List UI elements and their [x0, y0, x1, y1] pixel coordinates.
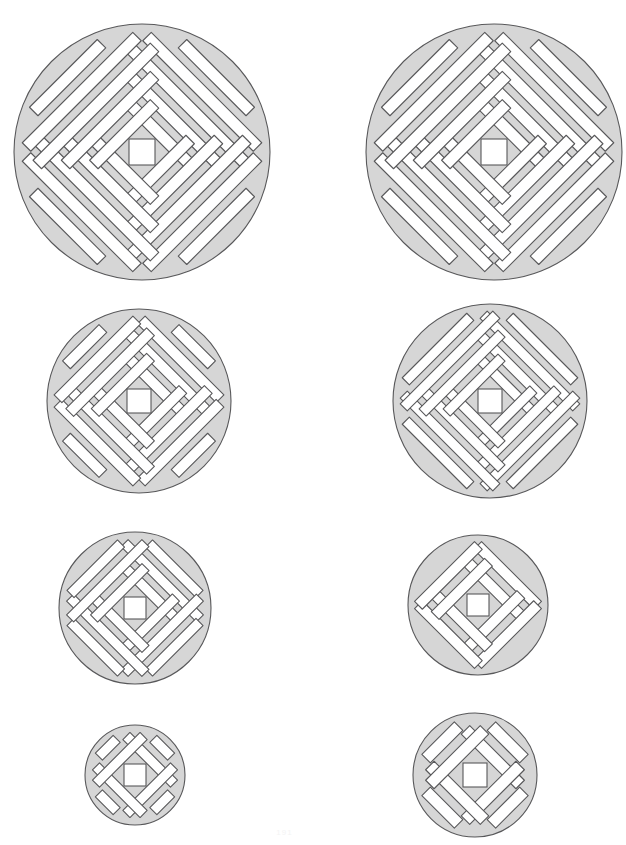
center-square-opening [481, 139, 507, 165]
center-square-opening [478, 389, 502, 413]
grate-mini-right [409, 709, 541, 841]
center-square-opening [129, 139, 155, 165]
center-square-opening [124, 597, 146, 619]
grate-small-left [55, 528, 215, 688]
page-number: 191 [0, 828, 569, 837]
grate-medium-right [389, 300, 591, 502]
center-square-opening [467, 594, 489, 616]
center-square-opening [127, 389, 151, 413]
grate-large-left [10, 20, 274, 284]
grate-medium-left [43, 305, 235, 497]
center-square-opening [463, 763, 487, 787]
grate-large-right [362, 20, 626, 284]
grate-mini-left [81, 721, 189, 829]
grate-small-right [404, 531, 552, 679]
center-square-opening [124, 764, 146, 786]
